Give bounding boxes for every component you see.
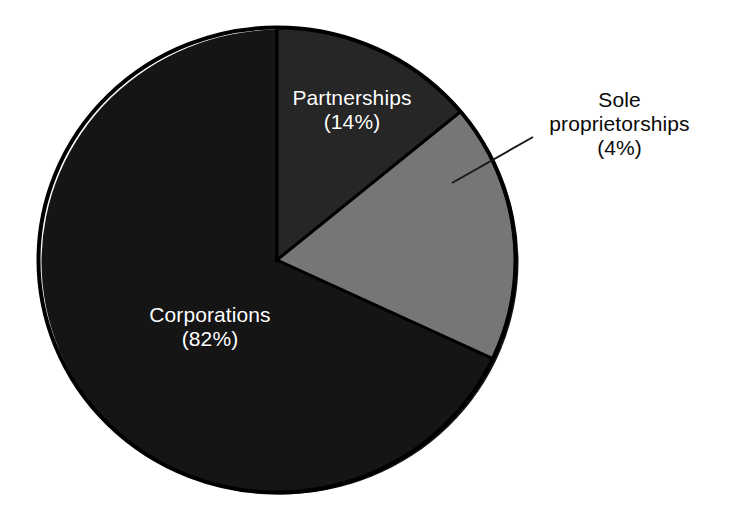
pie-chart-figure: Partnerships (14%) Corporations (82%) So… <box>0 0 732 509</box>
pie-chart-graphic <box>0 0 732 509</box>
